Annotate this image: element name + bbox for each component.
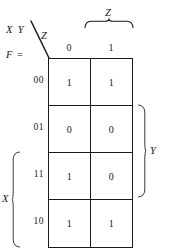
column-header-0: 0 <box>48 42 90 53</box>
kmap-cell: 1 <box>91 59 133 106</box>
function-equals-label: F = <box>6 50 24 61</box>
row-group-brace-y-icon <box>137 104 146 198</box>
row-header-00: 00 <box>22 75 44 85</box>
row-header-01: 01 <box>22 122 44 132</box>
kmap-cell: 1 <box>91 200 133 247</box>
column-group-brace-icon <box>84 19 134 28</box>
kmap-cell: 1 <box>49 200 91 247</box>
kmap-cell: 1 <box>49 153 91 200</box>
kmap-cell: 0 <box>49 106 91 153</box>
corner-row-variables-label: X Y <box>6 25 25 36</box>
kmap-cell: 1 <box>49 59 91 106</box>
column-header-1: 1 <box>90 42 132 53</box>
karnaugh-map-grid: 1 1 0 0 1 0 1 1 <box>48 58 133 248</box>
row-header-11: 11 <box>22 169 44 179</box>
row-group-label-y: Y <box>150 146 156 157</box>
column-group-label-z: Z <box>105 8 111 19</box>
row-group-brace-x-icon <box>12 151 21 248</box>
karnaugh-map-figure: X Y Z F = Z 0 1 00 01 11 10 1 1 0 0 1 0 … <box>0 0 171 251</box>
row-header-10: 10 <box>22 216 44 226</box>
row-group-label-x: X <box>2 194 8 205</box>
corner-diagonal-divider <box>28 18 52 60</box>
kmap-cell: 0 <box>91 153 133 200</box>
kmap-cell: 0 <box>91 106 133 153</box>
